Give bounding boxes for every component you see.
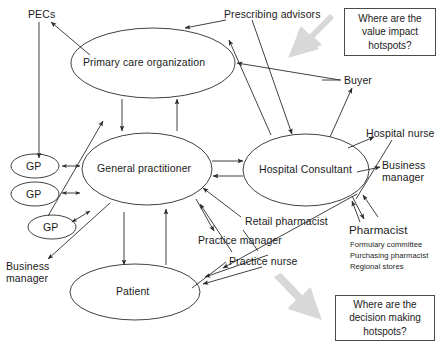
label-business-manager-right: Business manager — [382, 159, 425, 184]
label-prescribing-advisors: Prescribing advisors — [224, 8, 321, 20]
label-business-manager-left: Business manager — [6, 260, 49, 285]
label-hospital-nurse: Hospital nurse — [366, 127, 435, 139]
label-hospital-consultant: Hospital Consultant — [259, 164, 352, 176]
label-pecs: PECs — [28, 8, 55, 20]
callout-decision-making-hotspots[interactable]: Where are the decision making hotspots? — [335, 295, 435, 341]
pharmacist-sub-item-regional-stores: Regional stores — [350, 262, 428, 273]
label-primary-care-organization: Primary care organization — [83, 57, 205, 69]
pharmacist-sub-item-purchasing-pharmacist: Purchasing pharmacist — [350, 251, 428, 262]
label-practice-nurse: Practice nurse — [229, 255, 298, 267]
pharmacist-sub-items: Formulary committee Purchasing pharmacis… — [350, 240, 428, 272]
label-gp-3: GP — [43, 221, 58, 233]
callout-decision-making-line-3: hotspots? — [349, 325, 421, 338]
label-gp-1: GP — [26, 160, 41, 172]
label-pharmacist: Pharmacist — [349, 224, 408, 238]
callout-value-impact-line-2: value impact — [358, 25, 421, 38]
label-buyer: Buyer — [344, 74, 372, 86]
callout-decision-making-line-1: Where are the — [349, 298, 421, 311]
diagram-canvas: Primary care organization General practi… — [0, 0, 441, 346]
callout-value-impact-hotspots[interactable]: Where are the value impact hotspots? — [344, 8, 436, 56]
label-patient: Patient — [116, 286, 149, 298]
callout-value-impact-line-3: hotspots? — [358, 39, 421, 52]
label-retail-pharmacist: Retail pharmacist — [245, 215, 328, 227]
pharmacist-sub-item-formulary-committee: Formulary committee — [350, 240, 428, 251]
callout-value-impact-line-1: Where are the — [358, 12, 421, 25]
label-gp-2: GP — [26, 188, 41, 200]
callout-decision-making-line-2: decision making — [349, 311, 421, 324]
label-practice-manager: Practice manager — [198, 234, 282, 246]
label-general-practitioner: General practitioner — [97, 163, 191, 175]
